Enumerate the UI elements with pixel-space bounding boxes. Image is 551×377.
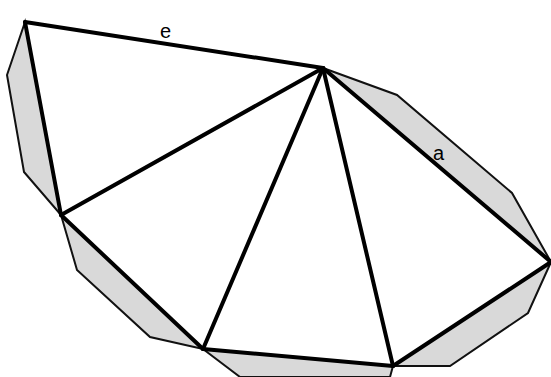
edge-a xyxy=(323,68,551,262)
edge-lower-left xyxy=(61,215,203,349)
label-a: a xyxy=(433,142,445,164)
diagonal-1 xyxy=(61,68,323,215)
edge-e xyxy=(25,22,323,68)
segment-left xyxy=(7,22,61,215)
diagonal-2 xyxy=(203,68,323,349)
label-e: e xyxy=(160,20,171,42)
triangulated-polygon-diagram: e a xyxy=(0,0,551,377)
